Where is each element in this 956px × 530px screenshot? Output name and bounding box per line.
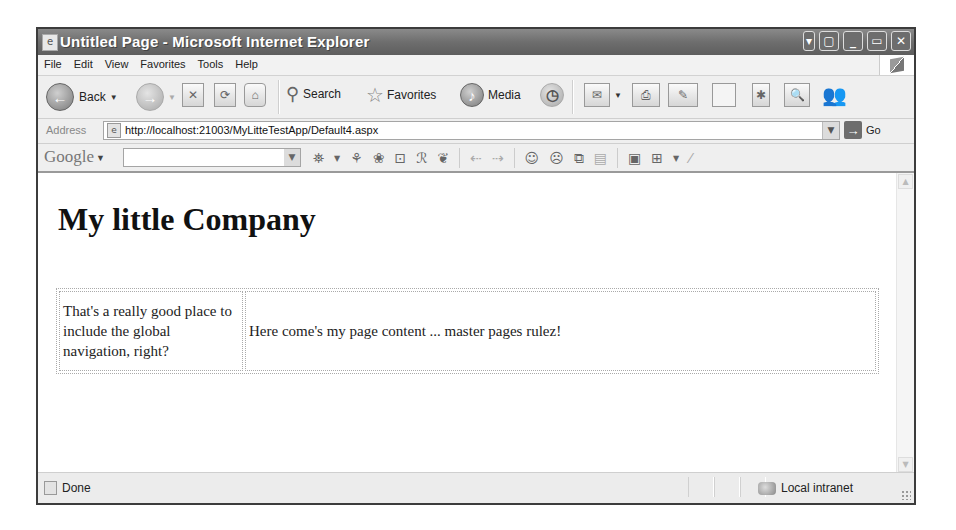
extra-window-button[interactable]: ▢ <box>819 31 839 51</box>
notes-icon[interactable]: ▤ <box>594 150 607 166</box>
mail-dropdown-icon[interactable]: ▼ <box>614 91 622 100</box>
menu-tools[interactable]: Tools <box>198 58 224 70</box>
folder-icon[interactable]: ⊞ <box>651 150 663 166</box>
image-icon[interactable]: ▣ <box>628 150 641 166</box>
home-icon[interactable]: ⌂ <box>244 83 266 107</box>
vertical-scrollbar[interactable]: ▲ ▼ <box>896 173 914 473</box>
status-pane <box>714 477 740 497</box>
forward-arrow-icon[interactable]: ⇢ <box>492 150 504 166</box>
news-icon[interactable]: ⚘ <box>350 150 363 166</box>
page-status-icon <box>44 481 57 495</box>
go-arrow-icon: → <box>844 121 862 139</box>
history-icon[interactable]: ◷ <box>540 83 564 107</box>
page-heading: My little Company <box>58 201 316 238</box>
go-button[interactable]: → Go <box>844 121 881 139</box>
menu-view[interactable]: View <box>105 58 129 70</box>
google-toolbar: Google▼ ▼ ⛯ ▼ ⚘ ❀ ⊡ ℛ ❦ ⇠ ⇢ ☺ ☹ ⧉ ▤ ▣ ⊞ … <box>38 144 914 173</box>
media-icon[interactable]: ♪ <box>460 83 484 107</box>
binoculars-icon[interactable]: ⛯ <box>313 150 324 167</box>
menu-bar: File Edit View Favorites Tools Help <box>38 55 914 76</box>
media-button-label[interactable]: Media <box>488 88 521 102</box>
toolbar-separator <box>617 148 618 168</box>
resize-grip[interactable] <box>901 490 911 500</box>
window-icon[interactable]: ⧉ <box>574 150 584 167</box>
back-arrow-icon[interactable]: ⇠ <box>470 150 482 166</box>
scroll-up-icon[interactable]: ▲ <box>898 174 913 189</box>
search-button-label[interactable]: Search <box>303 87 341 101</box>
forward-dropdown-icon[interactable]: ▼ <box>168 93 176 102</box>
favorites-button-label[interactable]: Favorites <box>387 88 436 102</box>
windows-logo-icon <box>879 55 914 75</box>
back-icon[interactable]: ← <box>46 83 74 111</box>
address-bar: Address e http://localhost:21003/MyLitte… <box>38 119 914 144</box>
google-search-input[interactable]: ▼ <box>123 148 301 167</box>
title-bar[interactable]: e Untitled Page - Microsoft Internet Exp… <box>38 29 914 55</box>
status-pane <box>688 477 714 497</box>
forward-icon[interactable]: → <box>136 83 164 111</box>
google-search-dropdown-icon[interactable]: ▼ <box>284 149 300 166</box>
address-label: Address <box>46 124 86 136</box>
popup-blocker-icon[interactable]: ⊡ <box>394 150 406 166</box>
security-zone-label: Local intranet <box>781 481 853 495</box>
scroll-down-icon[interactable]: ▼ <box>898 457 913 472</box>
print-icon[interactable]: ⎙ <box>632 83 660 107</box>
research-icon[interactable]: ✱ <box>752 83 770 107</box>
mail-icon[interactable]: ✉ <box>584 83 610 107</box>
go-label: Go <box>866 124 881 136</box>
messenger-icon[interactable]: 👥 <box>822 83 847 107</box>
happy-face-icon[interactable]: ☺ <box>525 150 540 166</box>
page-viewport: My little Company That's a really good p… <box>38 173 896 473</box>
stop-icon[interactable]: ✕ <box>182 83 204 107</box>
paw-icon[interactable]: ❀ <box>373 150 385 166</box>
toolbar-separator <box>572 80 574 114</box>
minimize-button[interactable]: _ <box>843 31 863 51</box>
standard-toolbar: ← Back ▼ → ▼ ✕ ⟳ ⌂ ⚲ Search ☆ Favorites … <box>38 76 914 119</box>
address-input[interactable]: e http://localhost:21003/MyLitteTestApp/… <box>103 121 840 140</box>
google-menu-button[interactable]: Google▼ <box>44 147 105 167</box>
page-icon: e <box>107 123 121 138</box>
refresh-icon[interactable]: ⟳ <box>214 83 236 107</box>
intranet-zone-icon <box>758 482 776 495</box>
folder-dropdown-icon[interactable]: ▼ <box>673 154 679 163</box>
menu-favorites[interactable]: Favorites <box>140 58 185 70</box>
search-icon[interactable]: ⚲ <box>286 83 299 105</box>
search-dropdown-icon[interactable]: ▼ <box>334 154 340 163</box>
address-dropdown-icon[interactable]: ▼ <box>822 122 839 139</box>
navigation-cell: That's a really good place to include th… <box>59 291 243 371</box>
google-logo: Google <box>44 147 94 166</box>
discuss-icon[interactable] <box>712 83 736 107</box>
layout-table: That's a really good place to include th… <box>56 288 879 374</box>
close-button[interactable]: ✕ <box>891 31 911 51</box>
translate-icon[interactable]: ❦ <box>437 150 449 166</box>
ie-page-icon: e <box>42 34 58 51</box>
favorites-icon[interactable]: ☆ <box>366 83 384 107</box>
tools-icon[interactable]: 🔍 <box>784 83 810 107</box>
spellcheck-icon[interactable]: ℛ <box>416 150 427 166</box>
maximize-button[interactable]: ▭ <box>867 31 887 51</box>
content-cell: Here come's my page content ... master p… <box>245 291 876 371</box>
highlighter-icon[interactable]: ⁄ <box>689 150 691 166</box>
menu-help[interactable]: Help <box>235 58 258 70</box>
back-dropdown-icon[interactable]: ▼ <box>110 93 118 102</box>
window-menu-button[interactable]: ▾ <box>803 31 815 51</box>
window-title: Untitled Page - Microsoft Internet Explo… <box>60 33 369 50</box>
address-url[interactable]: http://localhost:21003/MyLitteTestApp/De… <box>125 124 378 136</box>
back-button-label[interactable]: Back <box>79 90 106 104</box>
toolbar-separator <box>514 148 515 168</box>
toolbar-separator <box>278 80 280 114</box>
sad-face-icon[interactable]: ☹ <box>549 150 564 166</box>
browser-window: e Untitled Page - Microsoft Internet Exp… <box>36 27 916 505</box>
menu-edit[interactable]: Edit <box>74 58 93 70</box>
status-text: Done <box>62 481 91 495</box>
menu-file[interactable]: File <box>44 58 62 70</box>
toolbar-separator <box>459 148 460 168</box>
edit-icon[interactable]: ✎ <box>668 83 698 107</box>
status-bar: Done Local intranet <box>38 472 914 503</box>
